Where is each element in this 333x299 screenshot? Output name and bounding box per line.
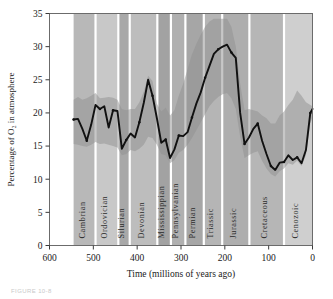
period-label-mississippian: Mississippian bbox=[157, 186, 166, 239]
period-label-ordovician: Ordovician bbox=[100, 196, 109, 239]
x-tick-label: 200 bbox=[218, 253, 233, 263]
data-point bbox=[112, 109, 115, 112]
period-label-pennsylvanian: Pennsylvanian bbox=[171, 183, 180, 239]
figure-container: CambrianOrdovicianSilurianDevonianMissis… bbox=[0, 0, 333, 299]
data-point bbox=[99, 108, 102, 111]
figure-caption: FIGURE 10-8 bbox=[11, 288, 52, 294]
y-tick-label: 20 bbox=[33, 108, 43, 118]
x-axis-label: Time (millions of years ago) bbox=[127, 269, 235, 280]
data-point bbox=[164, 138, 167, 141]
period-label-devonian: Devonian bbox=[137, 202, 146, 239]
y-axis-label: Percentage of O₂ in atmosphere bbox=[6, 72, 16, 186]
x-tick-label: 600 bbox=[42, 253, 57, 263]
data-point bbox=[191, 116, 194, 119]
x-tick-label: 400 bbox=[130, 253, 145, 263]
data-point bbox=[204, 77, 207, 80]
period-label-silurian: Silurian bbox=[117, 208, 126, 239]
data-point bbox=[296, 156, 299, 159]
data-point bbox=[138, 121, 141, 124]
x-tick-label: 500 bbox=[86, 253, 101, 263]
data-point bbox=[309, 112, 312, 115]
data-point bbox=[151, 94, 154, 97]
chart-canvas: CambrianOrdovicianSilurianDevonianMissis… bbox=[0, 0, 333, 299]
data-point bbox=[86, 140, 89, 143]
data-point bbox=[243, 143, 246, 146]
period-label-cretaceous: Cretaceous bbox=[260, 196, 269, 238]
y-tick-label: 35 bbox=[33, 9, 43, 19]
y-tick-label: 30 bbox=[33, 42, 43, 52]
period-label-cenozoic: Cenozoic bbox=[291, 203, 300, 239]
x-tick-label: 300 bbox=[174, 253, 189, 263]
y-tick-label: 0 bbox=[38, 241, 43, 251]
data-point bbox=[72, 118, 75, 121]
data-point bbox=[270, 165, 273, 168]
data-point bbox=[230, 51, 233, 54]
data-point bbox=[217, 48, 220, 51]
period-label-cambrian: Cambrian bbox=[78, 201, 87, 238]
y-tick-label: 25 bbox=[33, 75, 43, 85]
y-tick-label: 15 bbox=[33, 141, 43, 151]
period-label-permian: Permian bbox=[188, 207, 197, 239]
y-tick-label: 5 bbox=[38, 208, 43, 218]
data-point bbox=[178, 134, 181, 137]
period-label-triassic: Triassic bbox=[206, 208, 215, 238]
oxygen-history-line-chart: CambrianOrdovicianSilurianDevonianMissis… bbox=[0, 0, 333, 299]
x-tick-label: 0 bbox=[310, 253, 315, 263]
data-point bbox=[256, 122, 259, 125]
x-tick-label: 100 bbox=[262, 253, 277, 263]
data-point bbox=[283, 161, 286, 164]
period-label-jurassic: Jurassic bbox=[229, 208, 238, 239]
y-tick-label: 10 bbox=[33, 175, 43, 185]
data-point bbox=[125, 139, 128, 142]
